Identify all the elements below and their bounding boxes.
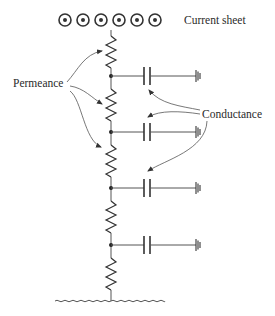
resistor-5	[106, 258, 116, 290]
branch-2	[109, 123, 200, 141]
ground-icon	[196, 239, 200, 251]
permeance-arrows	[67, 51, 102, 147]
current-out-icon	[77, 14, 89, 26]
capacitor-2	[144, 123, 150, 141]
current-out-icon	[131, 14, 143, 26]
permeance-ladder	[106, 30, 116, 301]
resistor-3	[106, 145, 116, 177]
capacitor-1	[144, 67, 150, 85]
current-sheet-label: Current sheet	[184, 14, 246, 26]
equivalent-circuit-diagram: Current sheet	[0, 0, 275, 316]
branch-3	[109, 179, 200, 197]
resistor-1	[106, 36, 116, 68]
ground-icon	[196, 126, 200, 138]
permeance-label: Permeance	[13, 77, 63, 89]
conductance-label: Conductance	[202, 108, 262, 120]
resistor-4	[106, 201, 116, 233]
current-out-icon	[113, 14, 125, 26]
current-out-icon	[149, 14, 161, 26]
branch-1	[109, 67, 200, 85]
current-out-icon	[95, 14, 107, 26]
capacitor-3	[144, 179, 150, 197]
ground-plane-line	[55, 300, 165, 302]
branch-4	[109, 236, 200, 254]
capacitor-4	[144, 236, 150, 254]
resistor-2	[106, 89, 116, 121]
current-sheet-symbols	[59, 14, 161, 26]
ground-icon	[196, 70, 200, 82]
ground-icon	[196, 182, 200, 194]
current-out-icon	[59, 14, 71, 26]
